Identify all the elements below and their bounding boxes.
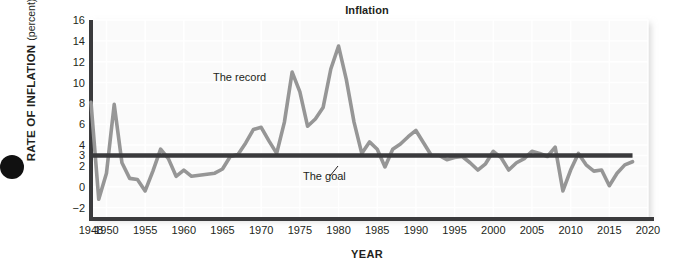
x-tick-label: 1980: [326, 224, 350, 236]
x-tick-label: 1950: [94, 224, 118, 236]
y-axis-tick-labels: −202346810121416: [72, 14, 85, 214]
x-tick-label: 2020: [636, 224, 660, 236]
y-tick-label: 16: [73, 14, 85, 26]
x-tick-label: 1960: [172, 224, 196, 236]
x-tick-label: 1955: [133, 224, 157, 236]
x-tick-label: 2005: [520, 224, 544, 236]
y-tick-label: 12: [73, 56, 85, 68]
goal-annotation: The goal: [303, 170, 346, 182]
x-tick-label: 1965: [210, 224, 234, 236]
y-tick-label: 2: [79, 160, 85, 172]
y-tick-label: 10: [73, 77, 85, 89]
y-tick-label: 0: [79, 181, 85, 193]
x-tick-label: 2015: [597, 224, 621, 236]
y-tick-label: 6: [79, 118, 85, 130]
x-tick-label: 1975: [288, 224, 312, 236]
record-annotation: The record: [213, 71, 266, 83]
x-tick-label: 1995: [442, 224, 466, 236]
y-tick-label: 14: [73, 35, 85, 47]
x-tick-label: 1970: [249, 224, 273, 236]
inflation-chart-figure: Inflation RATE OF INFLATION (percent) YE…: [0, 0, 698, 278]
y-tick-label: 4: [79, 139, 85, 151]
y-tick-label: −2: [72, 202, 85, 214]
y-tick-label: 8: [79, 97, 85, 109]
y-tick-label: 3: [79, 149, 85, 161]
plot-area: −202346810121416 19481950195519601965197…: [0, 0, 698, 278]
x-tick-label: 2000: [481, 224, 505, 236]
x-tick-label: 1990: [404, 224, 428, 236]
x-tick-label: 2010: [558, 224, 582, 236]
x-axis-tick-labels: 1948195019551960196519701975198019851990…: [79, 224, 660, 236]
x-tick-label: 1985: [365, 224, 389, 236]
